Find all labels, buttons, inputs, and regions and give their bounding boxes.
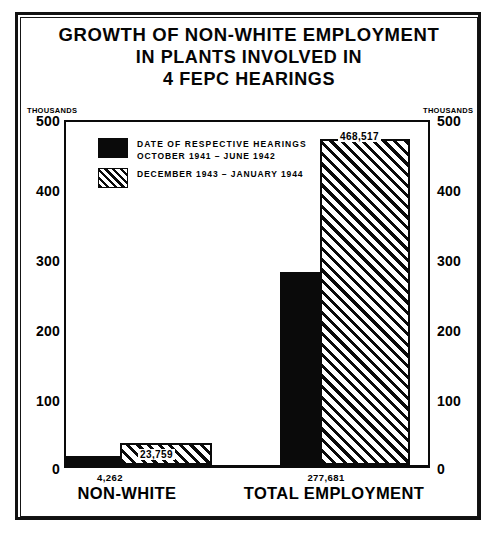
y-tick-right-500: 500 <box>437 114 497 128</box>
y-tick-left-100: 100 <box>0 394 60 408</box>
category-label-total-employment: TOTAL EMPLOYMENT <box>236 484 432 503</box>
legend-label-series1: OCTOBER 1941 – JUNE 1942 <box>137 150 307 162</box>
poster-canvas: GROWTH OF NON-WHITE EMPLOYMENT IN PLANTS… <box>0 0 497 544</box>
value-label-total-series1: 277,681 <box>276 472 376 483</box>
value-label-total-series2: 468,517 <box>338 131 381 142</box>
legend-row-series1[interactable]: DATE OF RESPECTIVE HEARINGS OCTOBER 1941… <box>98 138 328 162</box>
value-label-nonwhite-series2: 23,759 <box>138 449 175 460</box>
category-label-nonwhite: NON-WHITE <box>42 484 212 503</box>
bar-chart: THOUSANDS THOUSANDS 500 400 300 200 100 … <box>0 0 497 544</box>
y-tick-left-400: 400 <box>0 184 60 198</box>
y-tick-right-100: 100 <box>437 394 497 408</box>
legend-heading: DATE OF RESPECTIVE HEARINGS <box>137 138 307 150</box>
y-tick-right-300: 300 <box>437 254 497 268</box>
legend-swatch-solid-icon <box>98 138 128 158</box>
plot-area: 23,759 468,517 DATE OF RESPECTIVE HEARIN… <box>64 120 430 468</box>
bar-nonwhite-series1[interactable] <box>66 456 120 465</box>
y-tick-left-0: 0 <box>0 462 60 476</box>
y-tick-left-300: 300 <box>0 254 60 268</box>
value-label-nonwhite-series1: 4,262 <box>60 472 160 483</box>
legend-row-series2[interactable]: DECEMBER 1943 – JANUARY 1944 <box>98 168 328 188</box>
legend-label-series2: DECEMBER 1943 – JANUARY 1944 <box>137 168 303 180</box>
chart-legend: DATE OF RESPECTIVE HEARINGS OCTOBER 1941… <box>98 138 328 194</box>
bar-total-series2[interactable] <box>320 139 410 465</box>
y-tick-left-200: 200 <box>0 324 60 338</box>
y-tick-left-500: 500 <box>0 114 60 128</box>
y-tick-right-400: 400 <box>437 184 497 198</box>
y-tick-right-200: 200 <box>437 324 497 338</box>
y-tick-right-0: 0 <box>437 462 497 476</box>
legend-swatch-hatch-icon <box>98 168 128 188</box>
